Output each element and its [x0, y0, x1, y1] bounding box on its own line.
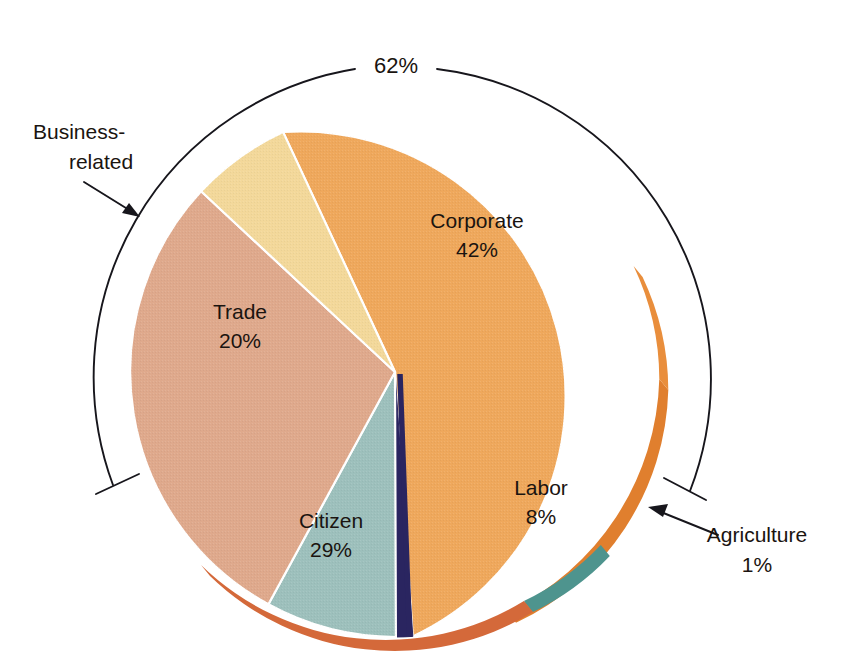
business-related-label-line2: related — [69, 150, 133, 173]
pie-chart-canvas: Business- related 62% Agriculture 1% Cor… — [0, 0, 855, 668]
depth-wall-corporate-right — [634, 266, 669, 390]
slice-label-trade: Trade — [213, 300, 267, 323]
agriculture-callout: Agriculture 1% — [648, 504, 807, 576]
slice-label-corporate: Corporate — [430, 209, 523, 232]
agriculture-value: 1% — [742, 553, 772, 576]
slice-label-citizen: Citizen — [299, 509, 363, 532]
pie-chart-figure: Business- related 62% Agriculture 1% Cor… — [0, 0, 855, 668]
slice-value-corporate: 42% — [456, 238, 498, 261]
slice-label-labor: Labor — [514, 476, 568, 499]
agriculture-label: Agriculture — [707, 523, 807, 546]
bracket-tick-left — [96, 474, 139, 494]
slice-value-trade: 20% — [219, 329, 261, 352]
pie-slices — [130, 131, 565, 637]
business-related-callout: Business- related — [33, 120, 140, 217]
slice-value-citizen: 29% — [310, 538, 352, 561]
business-related-label-line1: Business- — [33, 120, 125, 143]
business-related-arrow-head — [122, 203, 140, 217]
depth-wall-labor — [524, 545, 610, 612]
bracket-tick-right — [664, 478, 706, 500]
agriculture-arrow-head — [648, 504, 668, 517]
slice-value-labor: 8% — [526, 505, 556, 528]
group-total-label: 62% — [374, 53, 418, 78]
